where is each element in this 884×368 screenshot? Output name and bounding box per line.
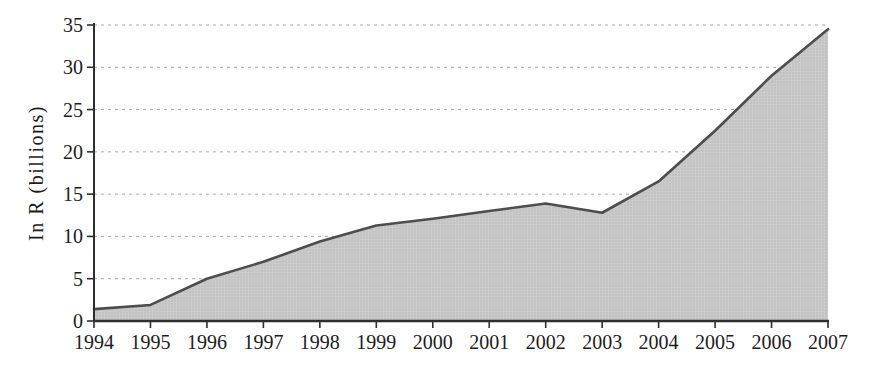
y-tick-label-30: 30 bbox=[63, 56, 83, 78]
x-tick-label-2005: 2005 bbox=[695, 331, 735, 353]
x-tick-label-2003: 2003 bbox=[582, 331, 622, 353]
area-chart-figure: 0510152025303519941995199619971998199920… bbox=[0, 0, 884, 368]
x-tick-label-2000: 2000 bbox=[413, 331, 453, 353]
area-fill bbox=[94, 29, 828, 321]
y-tick-label-0: 0 bbox=[73, 310, 83, 332]
y-tick-label-10: 10 bbox=[63, 225, 83, 247]
x-tick-label-2004: 2004 bbox=[639, 331, 679, 353]
y-tick-label-5: 5 bbox=[73, 268, 83, 290]
x-tick-label-2001: 2001 bbox=[469, 331, 509, 353]
y-tick-label-25: 25 bbox=[63, 99, 83, 121]
x-tick-label-1994: 1994 bbox=[74, 331, 114, 353]
x-tick-label-2002: 2002 bbox=[526, 331, 566, 353]
x-tick-label-2007: 2007 bbox=[808, 331, 848, 353]
x-tick-label-1999: 1999 bbox=[356, 331, 396, 353]
x-tick-label-1998: 1998 bbox=[300, 331, 340, 353]
y-tick-label-35: 35 bbox=[63, 14, 83, 36]
x-tick-label-1997: 1997 bbox=[243, 331, 283, 353]
x-tick-label-1996: 1996 bbox=[187, 331, 227, 353]
x-tick-label-1995: 1995 bbox=[130, 331, 170, 353]
y-axis-title: In R (billions) bbox=[25, 23, 47, 323]
y-tick-label-20: 20 bbox=[63, 141, 83, 163]
area-chart: 0510152025303519941995199619971998199920… bbox=[0, 0, 884, 368]
y-tick-label-15: 15 bbox=[63, 183, 83, 205]
x-tick-label-2006: 2006 bbox=[752, 331, 792, 353]
